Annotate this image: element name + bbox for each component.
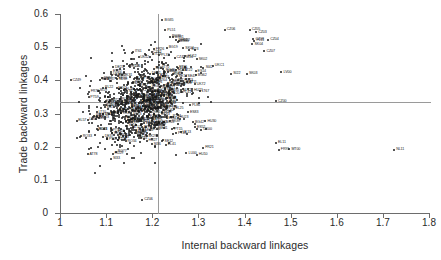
scatter-point — [149, 133, 151, 135]
scatter-point — [134, 85, 136, 87]
scatter-point — [99, 142, 101, 144]
scatter-point — [139, 135, 141, 137]
point-label: FR26 — [156, 47, 164, 51]
point-label: AT41 — [160, 73, 168, 77]
scatter-point — [82, 111, 84, 113]
scatter-point — [111, 52, 113, 54]
point-label: CZ03 — [258, 30, 266, 34]
scatter-point — [98, 117, 100, 119]
scatter-point — [172, 133, 174, 135]
scatter-point — [121, 45, 123, 47]
scatter-point — [169, 101, 171, 103]
x-tick-label: 1.1 — [86, 217, 126, 228]
point-label: UK52 — [140, 55, 149, 59]
point-label: ES83 — [190, 110, 198, 114]
point-label: LT66 — [89, 117, 97, 121]
scatter-point — [153, 113, 155, 115]
point-label: BG62 — [198, 73, 207, 77]
scatter-point — [133, 58, 135, 60]
scatter-point — [133, 136, 135, 138]
scatter-point — [147, 61, 149, 63]
scatter-point — [182, 47, 184, 49]
y-tick-label: 0.2 — [6, 141, 48, 152]
scatter-point — [198, 102, 200, 104]
scatter-point — [188, 49, 190, 51]
scatter-point — [140, 152, 142, 154]
scatter-point — [154, 106, 156, 108]
scatter-point — [79, 87, 81, 89]
scatter-point — [154, 162, 156, 164]
point-label: EL11 — [278, 140, 286, 144]
scatter-point — [263, 50, 265, 52]
scatter-point — [180, 85, 182, 87]
point-label: FR91 — [281, 147, 289, 151]
scatter-point — [111, 60, 113, 62]
scatter-point — [125, 111, 127, 113]
scatter-point — [139, 141, 141, 143]
scatter-point — [104, 95, 106, 97]
scatter-point — [183, 60, 185, 62]
scatter-point — [204, 120, 206, 122]
scatter-point — [122, 122, 124, 124]
x-tick-label: 1.4 — [225, 217, 265, 228]
scatter-point — [88, 122, 90, 124]
point-label: AT22 — [184, 68, 192, 72]
scatter-point — [106, 137, 108, 139]
scatter-point — [149, 56, 151, 58]
scatter-point — [94, 172, 96, 174]
scatter-point — [175, 154, 177, 156]
point-label: CZ46 — [107, 103, 115, 107]
scatter-point — [99, 165, 101, 167]
scatter-point — [255, 31, 257, 33]
scatter-point — [133, 145, 135, 147]
scatter-point — [151, 59, 153, 61]
scatter-point — [114, 118, 116, 120]
scatter-point — [251, 43, 253, 45]
point-label: IT70 — [162, 65, 169, 69]
point-label: SK80 — [156, 97, 164, 101]
scatter-point — [127, 148, 129, 150]
y-tick-label: 0.5 — [6, 41, 48, 52]
point-label: PL51 — [167, 28, 175, 32]
point-label: SI14 — [186, 55, 193, 59]
scatter-point — [103, 72, 105, 74]
scatter-point — [78, 101, 80, 103]
scatter-point — [90, 57, 92, 59]
point-label: SK12 — [142, 99, 150, 103]
scatter-point — [120, 103, 122, 105]
scatter-point — [87, 93, 89, 95]
scatter-point — [142, 105, 144, 107]
point-label: CZ04 — [270, 37, 278, 41]
scatter-point — [89, 113, 91, 115]
scatter-point — [124, 52, 126, 54]
point-label: SI22 — [233, 71, 240, 75]
point-label: SK04 — [255, 42, 263, 46]
point-label: CY00 — [166, 89, 175, 93]
scatter-point — [275, 100, 277, 102]
scatter-point — [150, 44, 152, 46]
x-tick-label: 1.6 — [317, 217, 357, 228]
scatter-point — [196, 58, 198, 60]
scatter-point — [144, 63, 146, 65]
scatter-point — [196, 154, 198, 156]
scatter-point — [104, 148, 106, 150]
scatter-point — [126, 153, 128, 155]
point-label: HU10 — [199, 152, 208, 156]
scatter-point — [131, 157, 133, 159]
scatter-point — [99, 79, 101, 81]
scatter-point — [110, 123, 112, 125]
scatter-point — [143, 98, 145, 100]
point-label: NL11 — [396, 147, 404, 151]
point-label: SE47 — [188, 74, 196, 78]
scatter-point — [97, 146, 99, 148]
scatter-point — [89, 85, 91, 87]
x-tick-label: 1.5 — [271, 217, 311, 228]
scatter-point — [123, 49, 125, 51]
scatter-point — [207, 96, 209, 98]
scatter-point — [165, 144, 167, 146]
scatter-point — [136, 77, 138, 79]
scatter-point — [120, 90, 122, 92]
point-label: FI30 — [154, 116, 161, 120]
point-label: SE58 — [140, 95, 148, 99]
